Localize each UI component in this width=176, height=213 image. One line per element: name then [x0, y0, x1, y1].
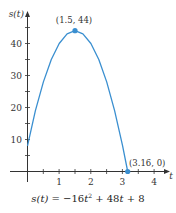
y-tick-label-20: 20 [11, 103, 23, 113]
root-point [125, 169, 130, 174]
x-tick-label-4: 4 [151, 177, 157, 187]
function-formula: s(t) = −16t2 + 48t + 8 [0, 192, 176, 204]
formula-eq: = −16 [48, 193, 84, 204]
x-axis-label: t [169, 171, 173, 181]
vertex-point [72, 28, 77, 33]
formula-tail: + 8 [124, 193, 145, 204]
y-axis-arrow-icon [25, 11, 30, 17]
root-label: (3.16, 0) [129, 158, 165, 168]
formula-mid: + 48 [92, 193, 119, 204]
y-tick-label-40: 40 [11, 39, 23, 49]
x-tick-label-1: 1 [56, 177, 62, 187]
y-tick-label-30: 30 [11, 71, 23, 81]
vertex-label: (1.5, 44) [56, 15, 92, 25]
y-axis-label: s(t) [9, 9, 25, 19]
parabola-chart: 1 2 3 4 10 20 30 40 s(t) t (1.5, 44) (3.… [0, 0, 176, 213]
x-tick-label-2: 2 [88, 177, 94, 187]
formula-lhs: s(t) [31, 193, 48, 204]
x-tick-label-3: 3 [120, 177, 126, 187]
y-tick-label-10: 10 [11, 135, 23, 145]
parabola-curve [28, 31, 128, 172]
